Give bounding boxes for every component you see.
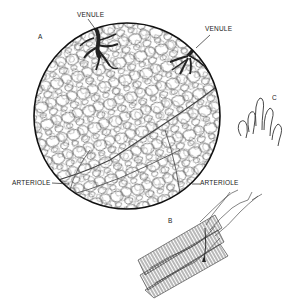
venule-right-leader: [196, 35, 210, 48]
panel-b-fibers: [138, 190, 262, 298]
label-panel-b: B: [168, 218, 173, 225]
capillary-diagram: [0, 0, 301, 299]
venule-left-leader: [88, 19, 96, 30]
label-arteriole-right: ARTERIOLE: [200, 180, 239, 187]
label-venule-right: VENULE: [205, 26, 232, 33]
panel-c-loops: [238, 98, 281, 146]
label-panel-a: A: [38, 34, 43, 41]
label-panel-c: C: [272, 95, 277, 102]
label-venule-left: VENULE: [77, 12, 104, 19]
label-arteriole-left: ARTERIOLE: [12, 180, 51, 187]
